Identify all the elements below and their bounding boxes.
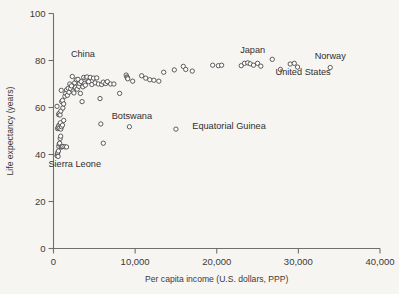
- data-point: [190, 69, 194, 73]
- data-point: [172, 68, 176, 72]
- data-point: [59, 134, 63, 138]
- x-axis-tick-label: 20,000: [202, 256, 231, 267]
- data-point: [101, 141, 105, 145]
- data-point: [72, 91, 76, 95]
- data-point: [140, 74, 144, 78]
- data-point: [56, 149, 60, 153]
- data-label-equatorial-guinea: Equatorial Guinea: [192, 121, 266, 131]
- data-point: [95, 76, 99, 80]
- data-point: [162, 70, 166, 74]
- data-point: [62, 118, 66, 122]
- data-label-united-states: United States: [276, 67, 332, 77]
- data-label-japan: Japan: [240, 45, 265, 55]
- data-point: [184, 67, 188, 71]
- data-point: [78, 91, 82, 95]
- data-point: [148, 78, 152, 82]
- data-point: [60, 123, 64, 127]
- data-point: [62, 102, 66, 106]
- data-point: [152, 78, 156, 82]
- x-axis-title: Per capita income (U.S. dollars, PPP): [145, 274, 288, 284]
- y-axis-title: Life expectancy (years): [5, 86, 15, 175]
- data-point: [270, 57, 274, 61]
- data-point: [174, 127, 178, 131]
- x-axis-tick-label: 30,000: [284, 256, 313, 267]
- data-point: [288, 62, 292, 66]
- y-axis-tick-label: 80: [35, 55, 46, 66]
- x-axis-tick-label: 10,000: [121, 256, 150, 267]
- data-point: [98, 96, 102, 100]
- data-point: [131, 79, 135, 83]
- data-point: [112, 82, 116, 86]
- data-point: [126, 77, 130, 81]
- data-point: [127, 125, 131, 129]
- y-axis-tick-label: 100: [30, 8, 46, 19]
- data-point: [59, 88, 63, 92]
- x-axis-tick-label: 0: [51, 256, 56, 267]
- x-axis-tick-label: 40,000: [365, 256, 394, 267]
- data-point: [64, 145, 68, 149]
- data-point: [117, 91, 121, 95]
- data-point: [70, 74, 74, 78]
- data-point: [211, 63, 215, 67]
- y-axis-tick-label: 40: [35, 149, 46, 160]
- data-point: [99, 122, 103, 126]
- data-point: [220, 63, 224, 67]
- data-point: [259, 64, 263, 68]
- data-label-norway: Norway: [315, 51, 347, 61]
- data-label-sierra-leone: Sierra Leone: [48, 159, 101, 169]
- data-point: [55, 104, 59, 108]
- y-axis-tick-label: 60: [35, 102, 46, 113]
- y-axis-tick-label: 20: [35, 196, 46, 207]
- data-point: [80, 99, 84, 103]
- data-point: [83, 83, 87, 87]
- data-label-china: China: [71, 49, 96, 59]
- y-axis-tick-label: 0: [40, 243, 45, 254]
- data-point: [157, 79, 161, 83]
- data-label-botswana: Botswana: [112, 111, 153, 121]
- data-point: [56, 154, 60, 158]
- data-point: [292, 61, 296, 65]
- scatter-chart: 020406080100010,00020,00030,00040,000Per…: [0, 0, 399, 294]
- data-point: [251, 63, 255, 67]
